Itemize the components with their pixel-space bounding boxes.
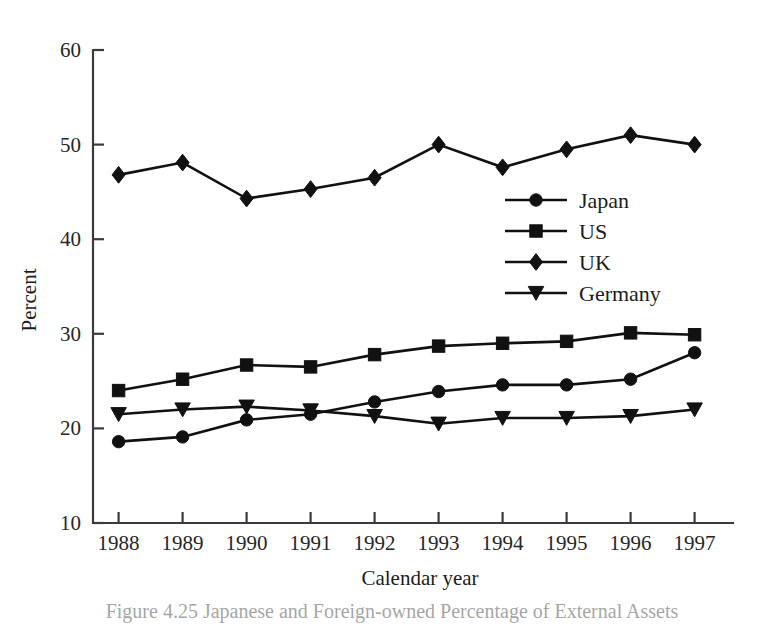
y-axis-title: Percent (17, 268, 41, 331)
data-point-circle (530, 194, 542, 206)
data-point-circle (432, 385, 444, 397)
data-point-circle (112, 435, 124, 447)
data-point-circle (624, 373, 636, 385)
data-point-diamond (304, 181, 317, 198)
data-point-diamond (624, 127, 637, 144)
legend-item-germany[interactable]: Germany (505, 281, 661, 306)
data-point-diamond (368, 169, 381, 186)
data-point-square (624, 327, 636, 339)
data-point-square (368, 348, 380, 360)
series-germany (111, 400, 703, 431)
series-japan (112, 347, 700, 448)
x-tick-label: 1991 (290, 531, 332, 555)
data-point-diamond (432, 136, 445, 153)
y-tick-label: 20 (60, 416, 81, 440)
y-tick-label: 40 (60, 227, 81, 251)
legend-label: US (579, 219, 607, 244)
x-tick-label: 1993 (418, 531, 460, 555)
data-point-square (560, 335, 572, 347)
data-point-diamond (112, 167, 125, 184)
legend-label: Japan (579, 188, 629, 213)
data-point-diamond (688, 136, 701, 153)
data-point-circle (368, 396, 380, 408)
data-point-diamond (560, 141, 573, 158)
legend-item-uk[interactable]: UK (505, 250, 611, 275)
data-point-square (432, 340, 444, 352)
data-point-circle (496, 379, 508, 391)
x-tick-label: 1994 (482, 531, 525, 555)
legend-label: Germany (579, 281, 661, 306)
legend-item-us[interactable]: US (505, 219, 607, 244)
data-point-diamond (529, 254, 542, 271)
y-tick-label: 50 (60, 133, 81, 157)
legend-item-japan[interactable]: Japan (505, 188, 629, 213)
data-point-circle (176, 431, 188, 443)
data-point-diamond (240, 190, 253, 207)
figure-caption: Figure 4.25 Japanese and Foreign-owned P… (0, 600, 784, 626)
data-point-diamond (496, 159, 509, 176)
x-tick-label: 1995 (546, 531, 588, 555)
series-us (112, 327, 700, 397)
legend-group[interactable]: JapanUSUKGermany (505, 188, 661, 306)
series-line (119, 407, 695, 424)
y-tick-label: 30 (60, 322, 81, 346)
x-tick-label: 1990 (226, 531, 268, 555)
series-line (119, 353, 695, 442)
x-tick-label: 1989 (162, 531, 204, 555)
data-point-square (112, 384, 124, 396)
y-tick-label: 10 (60, 511, 81, 535)
y-tick-label: 60 (60, 38, 81, 62)
data-point-diamond (176, 154, 189, 171)
x-tick-label: 1996 (610, 531, 652, 555)
x-tick-label: 1992 (354, 531, 396, 555)
legend-label: UK (579, 250, 611, 275)
data-point-square (304, 361, 316, 373)
x-tick-label: 1997 (674, 531, 716, 555)
data-point-square (530, 225, 542, 237)
data-point-square (240, 359, 252, 371)
data-point-square (496, 337, 508, 349)
data-point-circle (688, 347, 700, 359)
data-point-circle (240, 414, 252, 426)
data-point-square (176, 373, 188, 385)
x-tick-label: 1988 (98, 531, 140, 555)
x-axis-title: Calendar year (361, 566, 478, 590)
data-point-square (688, 329, 700, 341)
data-point-circle (560, 379, 572, 391)
